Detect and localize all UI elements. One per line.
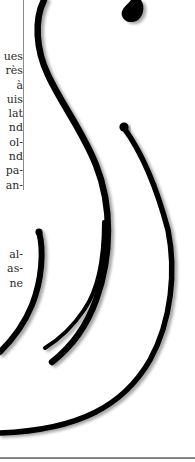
swirl-stroke-middle-taper	[45, 222, 104, 348]
swirl-knob-right	[119, 122, 128, 131]
swirl-stroke-inner-left	[0, 232, 42, 352]
swirl-blob-top	[122, 0, 144, 22]
swirl-knob-left	[35, 228, 42, 235]
document-page: ues rès à uis lat nd ol- nd pa- an- al- …	[0, 0, 195, 462]
page-bottom-rule	[0, 457, 195, 459]
swirl-stroke-main	[38, 0, 108, 362]
calligraphic-swirl-icon	[0, 0, 195, 462]
swirl-stroke-outer-right	[0, 128, 172, 433]
